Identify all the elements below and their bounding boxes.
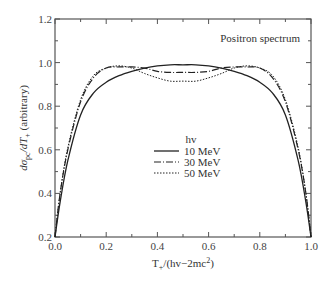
y-tick-label: 1.2 [38, 13, 52, 25]
y-tick-label: 0.8 [38, 100, 52, 112]
legend-title: hv [186, 133, 198, 145]
series-line-50-mev [55, 66, 311, 237]
x-tick-label: 0.6 [202, 240, 216, 252]
legend: hv10 MeV30 MeV50 MeV [154, 133, 220, 179]
chart: 0.00.20.40.60.81.00.20.40.60.81.01.2 Pos… [0, 0, 334, 281]
x-tick-label: 1.0 [304, 240, 318, 252]
x-tick-label: 0.2 [99, 240, 113, 252]
y-tick-label: 1.0 [38, 57, 52, 69]
x-tick-label: 0.4 [151, 240, 165, 252]
x-tick-label: 0.8 [253, 240, 267, 252]
legend-label: 50 MeV [184, 167, 220, 179]
plot-frame: 0.00.20.40.60.81.00.20.40.60.81.01.2 [38, 13, 318, 252]
y-tick-label: 0.6 [38, 144, 52, 156]
y-tick-label: 0.4 [38, 187, 52, 199]
y-tick-label: 0.2 [38, 231, 52, 243]
x-axis-label: T+/(hv−2mc2) [152, 256, 214, 272]
series-lines [55, 65, 311, 237]
y-axis-label: dσpc/dT+ (arbitrary) [17, 85, 32, 171]
chart-annotation: Positron spectrum [220, 32, 300, 44]
series-line-10-mev [55, 65, 311, 237]
